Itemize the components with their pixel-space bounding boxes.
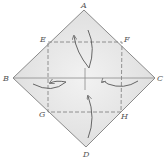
label-e: E bbox=[39, 35, 46, 44]
label-c: C bbox=[157, 74, 163, 83]
label-f: F bbox=[123, 35, 130, 44]
label-b: B bbox=[2, 74, 9, 83]
label-h: H bbox=[120, 112, 129, 121]
origami-diagram: A B C D E F G H bbox=[0, 0, 165, 159]
label-d: D bbox=[82, 150, 90, 159]
paper-diamond bbox=[13, 10, 155, 147]
label-g: G bbox=[39, 110, 46, 119]
label-a: A bbox=[80, 1, 87, 10]
